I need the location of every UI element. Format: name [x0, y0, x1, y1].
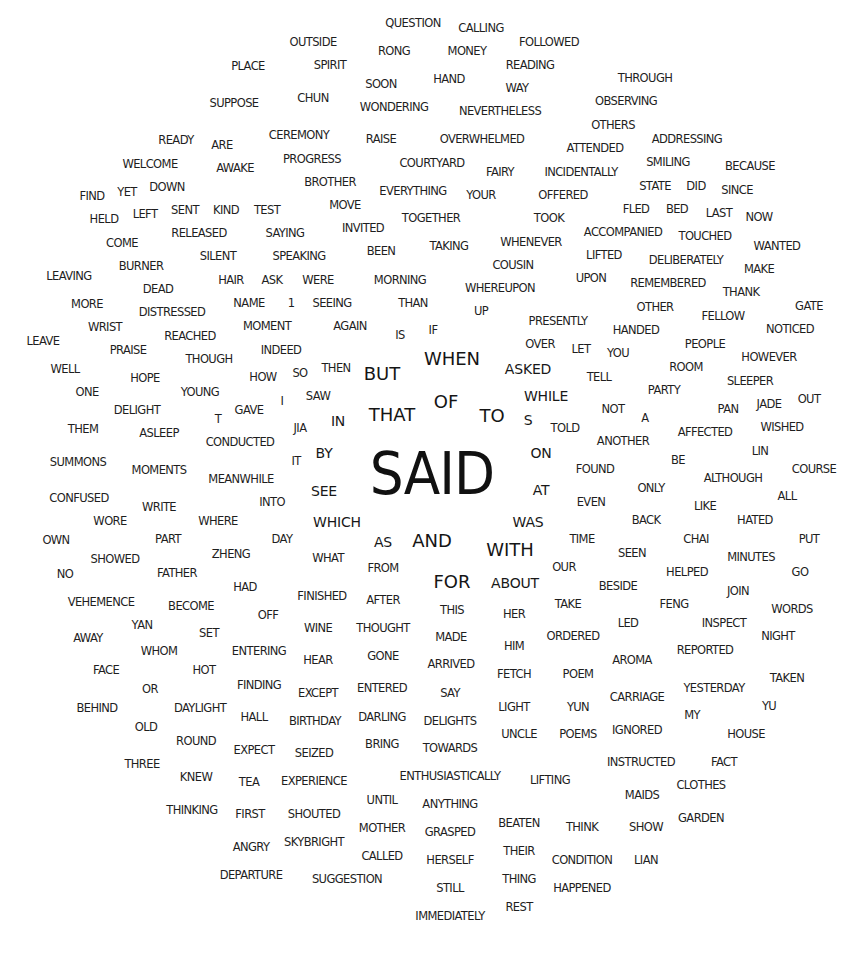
word-set: SET: [199, 628, 219, 640]
word-brother: BROTHER: [304, 177, 356, 189]
word-wore: WORE: [93, 516, 126, 528]
word-up: UP: [474, 306, 488, 318]
word-you: YOU: [607, 348, 629, 360]
word-ask: ASK: [262, 275, 283, 287]
word-kind: KIND: [213, 205, 239, 217]
word-herself: HERSELF: [426, 855, 473, 867]
word-courtyard: COURTYARD: [399, 158, 464, 170]
word-or: OR: [142, 684, 158, 696]
word-until: UNTIL: [367, 795, 398, 807]
word-money: MONEY: [448, 46, 487, 58]
word-everything: EVERYTHING: [379, 186, 446, 198]
word-showed: SHOWED: [91, 554, 140, 566]
word-face: FACE: [93, 665, 119, 677]
word-remembered: REMEMBERED: [630, 278, 706, 290]
word-poems: POEMS: [559, 729, 596, 741]
word-distressed: DISTRESSED: [139, 307, 206, 319]
word-were: WERE: [302, 275, 334, 287]
word-although: ALTHOUGH: [704, 473, 763, 485]
word-asked: ASKED: [505, 362, 551, 376]
word-tea: TEA: [239, 777, 259, 789]
word-hated: HATED: [737, 515, 773, 527]
word-fled: FLED: [623, 204, 650, 216]
word-only: ONLY: [637, 483, 664, 495]
word-offered: OFFERED: [538, 190, 587, 202]
word-instructed: INSTRUCTED: [607, 757, 675, 769]
word-ignored: IGNORED: [612, 725, 662, 737]
word-birthday: BIRTHDAY: [289, 716, 341, 728]
word-other: OTHER: [637, 302, 674, 314]
word-behind: BEHIND: [76, 703, 117, 715]
word-silent: SILENT: [200, 251, 236, 263]
word-seized: SEIZED: [295, 748, 333, 760]
word-touched: TOUCHED: [678, 231, 731, 243]
word-garden: GARDEN: [678, 813, 724, 825]
word-calling: CALLING: [458, 23, 503, 35]
word-first: FIRST: [235, 809, 264, 821]
word-smiling: SMILING: [646, 157, 690, 169]
word-awake: AWAKE: [216, 163, 254, 175]
word-shouted: SHOUTED: [288, 809, 340, 821]
word-hall: HALL: [241, 712, 268, 724]
word-except: EXCEPT: [298, 688, 338, 700]
word-father: FATHER: [157, 568, 197, 580]
word-angry: ANGRY: [233, 842, 270, 854]
word-uncle: UNCLE: [501, 729, 537, 741]
word-seeing: SEEING: [312, 298, 351, 310]
word-thing: THING: [502, 874, 536, 886]
word-time: TIME: [569, 534, 594, 546]
word-about: ABOUT: [491, 576, 539, 590]
word-another: ANOTHER: [597, 436, 649, 448]
word-fellow: FELLOW: [701, 311, 744, 323]
word-lin: LIN: [752, 446, 769, 458]
word-lifting: LIFTING: [530, 775, 570, 787]
word-at: AT: [533, 483, 550, 497]
word-into: INTO: [259, 497, 285, 509]
word-lian: LIAN: [634, 855, 658, 867]
word-thought: THOUGHT: [356, 623, 410, 635]
word-their: THEIR: [503, 846, 534, 858]
word-come: COME: [106, 238, 138, 250]
word-more: MORE: [71, 299, 103, 311]
word-yan: YAN: [132, 620, 153, 632]
word-feng: FENG: [660, 599, 689, 611]
word-delight: DELIGHT: [114, 405, 160, 417]
word-beaten: BEATEN: [498, 818, 539, 830]
word-zheng: ZHENG: [212, 549, 250, 561]
word-be: BE: [671, 455, 685, 467]
word-young: YOUNG: [181, 387, 219, 399]
word-knew: KNEW: [180, 772, 212, 784]
word-room: ROOM: [669, 362, 703, 374]
word-seen: SEEN: [618, 548, 646, 560]
word-whom: WHOM: [141, 646, 178, 658]
word-put: PUT: [799, 534, 820, 546]
word-moment: MOMENT: [243, 321, 291, 333]
word-three: THREE: [124, 759, 159, 771]
word-noticed: NOTICED: [766, 324, 814, 336]
word-find: FIND: [79, 191, 104, 203]
word-day: DAY: [272, 534, 293, 546]
word-happened: HAPPENED: [553, 883, 611, 895]
word-carriage: CARRIAGE: [610, 692, 664, 704]
word-bring: BRING: [365, 739, 399, 751]
word-our: OUR: [552, 562, 576, 574]
word-own: OWN: [42, 535, 69, 547]
word-suppose: SUPPOSE: [209, 98, 258, 110]
word-told: TOLD: [551, 423, 580, 435]
word-held: HELD: [90, 214, 119, 226]
word-no: NO: [57, 569, 73, 581]
word-by: BY: [316, 446, 333, 460]
word-immediately: IMMEDIATELY: [415, 911, 484, 923]
word-inspect: INSPECT: [702, 618, 746, 630]
word-rong: RONG: [378, 46, 410, 58]
word-suggestion: SUGGESTION: [312, 874, 382, 886]
word-attended: ATTENDED: [567, 143, 624, 155]
word-aroma: AROMA: [612, 655, 652, 667]
word-sent: SENT: [171, 205, 199, 217]
word-them: THEM: [68, 424, 98, 436]
word-conducted: CONDUCTED: [206, 437, 275, 449]
word-deliberately: DELIBERATELY: [649, 255, 724, 267]
word-words: WORDS: [771, 604, 813, 616]
word-away: AWAY: [73, 633, 103, 645]
word-reached: REACHED: [164, 331, 216, 343]
